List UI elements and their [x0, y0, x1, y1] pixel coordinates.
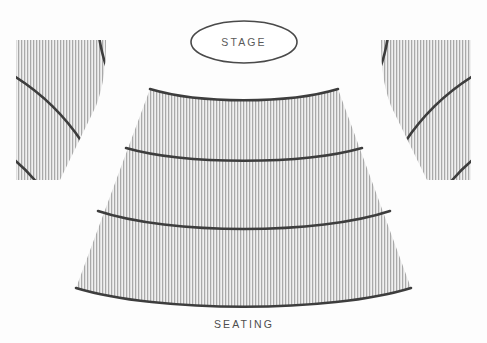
- center-hatch-fill: [60, 80, 430, 330]
- stage-label: STAGE: [221, 36, 266, 48]
- seating-section-center[interactable]: [60, 80, 430, 330]
- seating-chart-svg: STAGE SEATING: [0, 0, 487, 343]
- seating-section-left[interactable]: [10, 35, 120, 185]
- stage-area[interactable]: STAGE: [191, 21, 297, 63]
- venue-seating-map: STAGE SEATING: [0, 0, 487, 343]
- seating-section-right[interactable]: [367, 35, 477, 185]
- seating-label: SEATING: [214, 318, 274, 330]
